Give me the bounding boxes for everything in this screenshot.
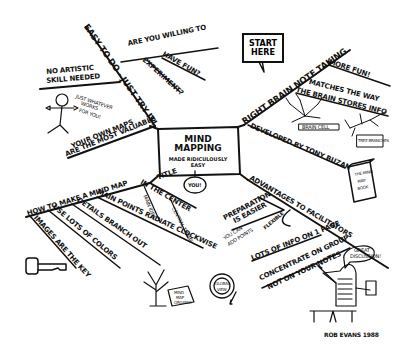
- tree-sign-3: Organic: [174, 300, 191, 305]
- central-topic: Mind Mapping made ridiculously easy: [159, 129, 237, 173]
- globe-label-2: view: [217, 287, 227, 292]
- label-brain-cell: Brain cell: [302, 124, 329, 130]
- mind-map-drawing: [0, 0, 411, 353]
- globe-label-1: Global: [215, 281, 230, 286]
- speech-discussion: discussion!: [350, 253, 381, 259]
- start-line2: Here: [244, 48, 282, 57]
- stick-figure-icon: [46, 94, 78, 133]
- you-bubble-text: You!: [188, 182, 201, 188]
- start-here-callout: Start Here: [242, 33, 284, 63]
- start-line1: Start: [244, 39, 282, 48]
- signature: Rob Evans 1988: [324, 331, 379, 338]
- central-title-line2: Mapping: [174, 144, 221, 153]
- central-subtitle-line2: easy: [191, 162, 206, 168]
- key-icon: [26, 258, 66, 274]
- label-tree-branches: Tree branches: [358, 138, 389, 143]
